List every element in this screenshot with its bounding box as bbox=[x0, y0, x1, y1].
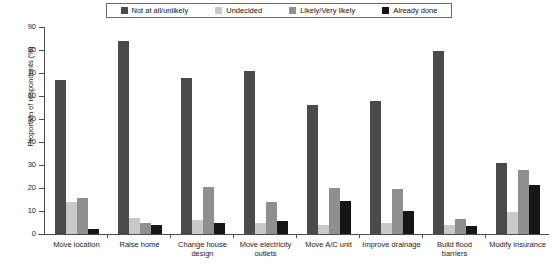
bar[interactable] bbox=[277, 221, 288, 234]
bar[interactable] bbox=[370, 101, 381, 234]
bar[interactable] bbox=[496, 163, 507, 234]
x-axis-group-tick bbox=[485, 234, 486, 238]
bar[interactable] bbox=[214, 223, 225, 235]
bar[interactable] bbox=[255, 223, 266, 235]
bar-group bbox=[423, 27, 486, 234]
bar[interactable] bbox=[129, 218, 140, 234]
x-axis-group-tick bbox=[107, 234, 108, 238]
bar[interactable] bbox=[392, 189, 403, 234]
bar[interactable] bbox=[77, 198, 88, 234]
bar[interactable] bbox=[518, 170, 529, 234]
bar[interactable] bbox=[329, 188, 340, 234]
legend-swatch-icon bbox=[382, 7, 389, 14]
legend-swatch-icon bbox=[215, 7, 222, 14]
legend-item[interactable]: Not at all/unlikely bbox=[119, 7, 191, 15]
y-axis-tick-label: 40 bbox=[28, 137, 36, 146]
bar[interactable] bbox=[529, 185, 540, 234]
bar[interactable] bbox=[455, 219, 466, 234]
y-axis-tick-label: 10 bbox=[28, 206, 36, 215]
legend-item-label: Likely/Very likely bbox=[300, 7, 355, 15]
bar[interactable] bbox=[403, 211, 414, 234]
bar[interactable] bbox=[266, 202, 277, 234]
bar[interactable] bbox=[444, 225, 455, 234]
bar-group bbox=[171, 27, 234, 234]
bar-groups bbox=[45, 27, 549, 234]
legend-item-label: Not at all/unlikely bbox=[132, 7, 189, 15]
y-axis-tick-label: 30 bbox=[28, 160, 36, 169]
bar[interactable] bbox=[151, 225, 162, 234]
bar[interactable] bbox=[192, 220, 203, 234]
bar[interactable] bbox=[140, 223, 151, 235]
bar[interactable] bbox=[318, 225, 329, 234]
bar-group bbox=[297, 27, 360, 234]
y-axis-tick-label: 80 bbox=[28, 45, 36, 54]
y-axis-tick-label: 20 bbox=[28, 183, 36, 192]
bar[interactable] bbox=[118, 41, 129, 234]
bar[interactable] bbox=[181, 78, 192, 234]
bar-group bbox=[486, 27, 549, 234]
bar[interactable] bbox=[340, 201, 351, 234]
y-axis-tick: 0 bbox=[39, 234, 44, 235]
legend-swatch-icon bbox=[121, 7, 128, 14]
y-axis-tick-label: 0 bbox=[32, 229, 36, 238]
x-axis-category-label: Move location bbox=[45, 240, 108, 258]
bar-group bbox=[45, 27, 108, 234]
y-axis-tick-label: 60 bbox=[28, 91, 36, 100]
y-axis-tick: 10 bbox=[39, 211, 44, 212]
bar[interactable] bbox=[507, 212, 518, 234]
legend-swatch-icon bbox=[289, 7, 296, 14]
x-axis-group-tick bbox=[296, 234, 297, 238]
x-axis-line bbox=[38, 234, 549, 235]
x-axis-category-label: Move electricity outlets bbox=[234, 240, 297, 258]
y-axis-tick: 70 bbox=[39, 73, 44, 74]
y-axis-tick: 20 bbox=[39, 188, 44, 189]
y-axis-tick: 80 bbox=[39, 50, 44, 51]
y-axis-tick-label: 90 bbox=[28, 22, 36, 31]
x-axis-group-tick bbox=[233, 234, 234, 238]
x-axis-group-tick bbox=[170, 234, 171, 238]
legend-item[interactable]: Already done bbox=[380, 7, 439, 15]
bar-group bbox=[360, 27, 423, 234]
x-axis-category-label: Improve drainage bbox=[360, 240, 423, 258]
legend-item-label: Undecided bbox=[226, 7, 262, 15]
y-axis-tick: 90 bbox=[39, 27, 44, 28]
bar[interactable] bbox=[66, 202, 77, 234]
y-axis-tick-label: 50 bbox=[28, 114, 36, 123]
bar[interactable] bbox=[203, 187, 214, 234]
bar-chart-figure: Not at all/unlikelyUndecidedLikely/Very … bbox=[0, 0, 557, 276]
legend-item[interactable]: Likely/Very likely bbox=[287, 7, 357, 15]
bar-group bbox=[108, 27, 171, 234]
x-axis-category-label: Move A/C unit bbox=[297, 240, 360, 258]
y-axis-tick: 40 bbox=[39, 142, 44, 143]
bar-group bbox=[234, 27, 297, 234]
x-axis-category-label: Modify insurance bbox=[486, 240, 549, 258]
chart-legend: Not at all/unlikelyUndecidedLikely/Very … bbox=[106, 3, 452, 18]
x-axis-category-label: Raise home bbox=[108, 240, 171, 258]
x-axis-group-tick bbox=[359, 234, 360, 238]
legend-item-label: Already done bbox=[393, 7, 437, 15]
bar[interactable] bbox=[244, 71, 255, 234]
plot-area: 0102030405060708090 bbox=[44, 27, 549, 234]
x-axis-labels: Move locationRaise homeChange house desi… bbox=[45, 240, 549, 258]
x-axis-category-label: Build flood barriers bbox=[423, 240, 486, 258]
bar[interactable] bbox=[307, 105, 318, 234]
y-axis-tick: 60 bbox=[39, 96, 44, 97]
bar[interactable] bbox=[381, 223, 392, 235]
bar[interactable] bbox=[55, 80, 66, 234]
bar[interactable] bbox=[433, 51, 444, 234]
legend-item[interactable]: Undecided bbox=[213, 7, 264, 15]
bar[interactable] bbox=[88, 229, 99, 234]
y-axis-tick: 50 bbox=[39, 119, 44, 120]
y-axis-tick-label: 70 bbox=[28, 68, 36, 77]
x-axis-category-label: Change house design bbox=[171, 240, 234, 258]
bar[interactable] bbox=[466, 226, 477, 234]
y-axis-tick: 30 bbox=[39, 165, 44, 166]
x-axis-group-tick bbox=[422, 234, 423, 238]
